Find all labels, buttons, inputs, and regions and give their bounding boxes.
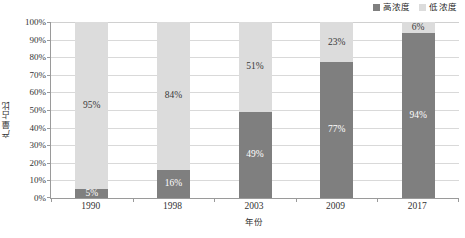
chart-legend: 高浓度 低浓度 — [373, 3, 457, 12]
legend-swatch-low-concentration — [419, 4, 426, 11]
y-axis-tick-label: 40% — [30, 123, 47, 133]
bar-segment-low-concentration[interactable]: 84% — [157, 22, 190, 170]
y-axis-tick-label: 70% — [30, 70, 47, 80]
bar-group[interactable]: 49%51% — [239, 22, 272, 198]
y-axis-tick-label: 10% — [30, 175, 47, 185]
y-axis-tick-label: 60% — [30, 87, 47, 97]
x-axis-tick-label: 1990 — [81, 201, 100, 211]
plot-area: 5%95%16%84%49%51%77%23%94%6% — [50, 22, 459, 199]
legend-label-high-concentration: 高浓度 — [383, 3, 411, 12]
bar-value-label: 95% — [83, 101, 100, 111]
bar-value-label: 6% — [412, 23, 425, 33]
y-axis-tick-label: 0% — [34, 193, 46, 203]
x-axis-tick-mark — [458, 198, 459, 202]
x-axis-tick-label: 2017 — [408, 201, 427, 211]
bar-segment-low-concentration[interactable]: 23% — [320, 22, 353, 62]
y-axis-tick-label: 30% — [30, 140, 47, 150]
y-axis-tick-label: 100% — [25, 17, 46, 27]
bar-segment-high-concentration[interactable]: 16% — [157, 170, 190, 198]
bar-value-label: 5% — [85, 189, 98, 199]
bar-value-label: 84% — [165, 91, 182, 101]
stacked-bar-chart: 高浓度 低浓度 产量占比 100%90%80%70%60%50%40%30%20… — [0, 0, 465, 238]
y-axis-tick-label: 90% — [30, 35, 47, 45]
x-axis-tick-label: 1998 — [163, 201, 182, 211]
bar-segment-high-concentration[interactable]: 49% — [239, 112, 272, 198]
bar-value-label: 94% — [409, 111, 426, 121]
legend-label-low-concentration: 低浓度 — [429, 3, 457, 12]
bar-group[interactable]: 16%84% — [157, 22, 190, 198]
y-axis-tick-labels: 100%90%80%70%60%50%40%30%20%10%0% — [14, 22, 46, 198]
bar-segment-low-concentration[interactable]: 95% — [75, 22, 108, 189]
bar-value-label: 77% — [328, 125, 345, 135]
bar-value-label: 16% — [165, 179, 182, 189]
bar-value-label: 23% — [328, 38, 345, 48]
x-axis-tick-label: 2009 — [326, 201, 345, 211]
y-axis-title: 产量占比 — [1, 100, 13, 138]
bar-group[interactable]: 77%23% — [320, 22, 353, 198]
y-axis-tick-label: 80% — [30, 52, 47, 62]
legend-entry-high-concentration[interactable]: 高浓度 — [373, 3, 411, 12]
bar-value-label: 49% — [246, 150, 263, 160]
x-axis-tick-label: 2003 — [245, 201, 264, 211]
legend-swatch-high-concentration — [373, 4, 380, 11]
bar-segment-high-concentration[interactable]: 5% — [75, 189, 108, 198]
bar-group[interactable]: 94%6% — [402, 22, 435, 198]
bar-segment-high-concentration[interactable]: 94% — [402, 33, 435, 198]
bar-group[interactable]: 5%95% — [75, 22, 108, 198]
y-axis-tick-label: 20% — [30, 158, 47, 168]
bar-segment-high-concentration[interactable]: 77% — [320, 62, 353, 198]
y-axis-tick-label: 50% — [30, 105, 47, 115]
legend-entry-low-concentration[interactable]: 低浓度 — [419, 3, 457, 12]
x-axis-title: 年份 — [50, 215, 458, 227]
bar-value-label: 51% — [246, 62, 263, 72]
figure-caption — [0, 232, 465, 238]
bar-segment-low-concentration[interactable]: 6% — [402, 22, 435, 33]
x-axis-tick-labels: 19901998200320092017 — [50, 201, 458, 215]
bar-segment-low-concentration[interactable]: 51% — [239, 22, 272, 112]
bar-series-container: 5%95%16%84%49%51%77%23%94%6% — [51, 22, 459, 198]
